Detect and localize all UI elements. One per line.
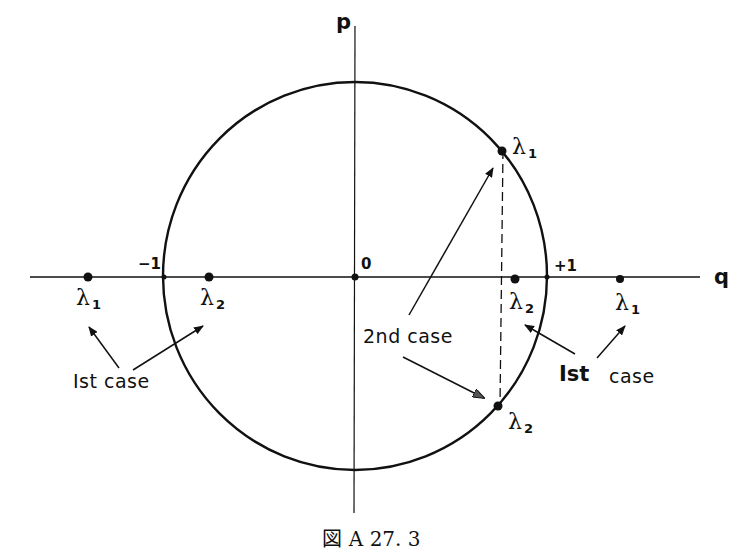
p-axis-label: p — [336, 12, 351, 33]
second-case-label: 2nd case — [363, 327, 453, 346]
point-left-lambda2 — [205, 273, 214, 282]
plus-one-label: +1 — [554, 259, 577, 274]
first-case-left-label: Ist case — [73, 372, 150, 391]
arrow-second-to-lambda2 — [403, 357, 484, 398]
label-second-lambda2: λ2 — [508, 411, 533, 435]
minus-one-label: −1 — [138, 257, 161, 272]
p-axis — [354, 26, 355, 513]
label-left-lambda2: λ2 — [200, 287, 225, 311]
arrow-second-to-lambda1 — [409, 168, 493, 315]
q-axis-label: q — [714, 267, 729, 288]
label-right-lambda2: λ2 — [509, 291, 534, 315]
origin-label: 0 — [361, 257, 371, 272]
plus-one-dot — [545, 275, 550, 280]
origin-dot — [352, 274, 359, 281]
arrow-first-right-to-lambda1 — [597, 326, 625, 358]
first-case-right-label-b: case — [609, 367, 655, 386]
point-second-lambda1 — [498, 147, 507, 156]
point-left-lambda1 — [84, 273, 93, 282]
minus-one-dot — [162, 275, 167, 280]
figure-caption: 図 A 27. 3 — [0, 523, 743, 552]
arrow-first-left-to-lambda1 — [89, 327, 119, 368]
point-right-lambda1 — [616, 275, 624, 283]
arrow-first-left-to-lambda2 — [133, 326, 203, 370]
point-right-lambda2 — [511, 275, 520, 284]
label-second-lambda1: λ1 — [512, 136, 537, 160]
label-left-lambda1: λ1 — [76, 287, 101, 311]
diagram-canvas — [0, 0, 743, 558]
label-right-lambda1: λ1 — [615, 292, 640, 316]
point-second-lambda2 — [494, 402, 503, 411]
first-case-right-label-a: Ist — [559, 364, 589, 385]
